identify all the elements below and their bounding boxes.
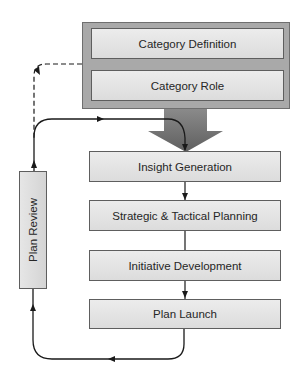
step-plan-launch: Plan Launch [89, 299, 281, 329]
step-label: Insight Generation [138, 161, 232, 173]
arrow-down-icon [182, 291, 188, 298]
arrow-up-icon [31, 160, 37, 168]
arrow-down-icon [182, 193, 188, 200]
arrow-up-icon [30, 304, 36, 311]
step-strategic-tactical-planning: Strategic & Tactical Planning [89, 200, 281, 231]
step-label: Initiative Development [128, 260, 241, 272]
dashed-arrowhead-icon [34, 66, 40, 75]
plan-review-label: Plan Review [27, 198, 39, 262]
arrow-left-icon [108, 356, 115, 362]
plan-review-box: Plan Review [19, 171, 47, 289]
step-label: Strategic & Tactical Planning [112, 210, 258, 222]
step-label: Plan Launch [153, 308, 217, 320]
step-initiative-development: Initiative Development [89, 250, 281, 281]
arrow-right-icon [97, 116, 104, 122]
dashed-feedback-line [34, 64, 82, 140]
step-insight-generation: Insight Generation [89, 151, 281, 182]
